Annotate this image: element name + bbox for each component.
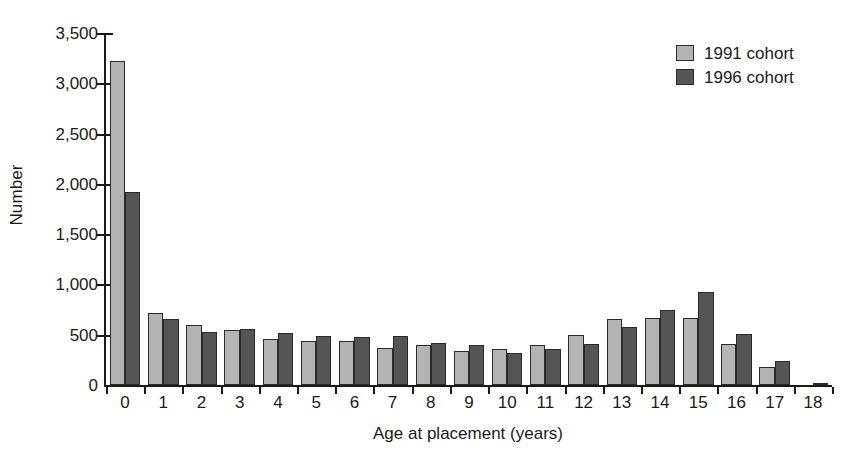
x-axis-tick-labels: 0123456789101112131415161718 (104, 394, 834, 418)
y-axis-tick-label: 0 (89, 377, 98, 394)
bar (660, 310, 675, 385)
bar (454, 351, 469, 385)
x-axis-line (104, 385, 832, 387)
x-axis-title-text: Age at placement (years) (373, 424, 563, 443)
bar (775, 361, 790, 385)
bar (736, 334, 751, 385)
bar (339, 341, 354, 385)
bar (263, 339, 278, 385)
x-axis-tick-label: 2 (197, 394, 206, 411)
x-axis-tick-label: 14 (651, 394, 670, 411)
bar (698, 292, 713, 385)
legend-label-0: 1991 cohort (704, 45, 794, 62)
bar (492, 349, 507, 385)
bar (568, 335, 583, 385)
bar (202, 332, 217, 385)
bar-chart-figure: Number 05001,0001,5002,0002,5003,0003,50… (0, 0, 863, 464)
bar (224, 330, 239, 385)
x-axis-tick-mark (641, 387, 643, 394)
x-axis-tick-label: 3 (235, 394, 244, 411)
y-axis-tick-label: 2,000 (55, 175, 98, 192)
legend-item-1: 1996 cohort (676, 65, 846, 89)
x-axis-tick-label: 10 (498, 394, 517, 411)
y-axis-tick-label: 2,500 (55, 125, 98, 142)
y-axis-tick-mark (97, 134, 104, 136)
bar (278, 333, 293, 385)
x-axis-tick-label: 9 (464, 394, 473, 411)
bar (645, 318, 660, 385)
bar (377, 348, 392, 385)
x-axis-tick-label: 12 (574, 394, 593, 411)
x-axis-tick-mark (794, 387, 796, 394)
x-axis-tick-label: 0 (120, 394, 129, 411)
x-axis-tick-mark (259, 387, 261, 394)
y-axis-tick-label: 500 (70, 326, 98, 343)
y-axis-tick-mark (97, 234, 104, 236)
bar (545, 349, 560, 385)
x-axis-tick-mark (373, 387, 375, 394)
x-axis-tick-label: 18 (803, 394, 822, 411)
bar (813, 383, 828, 385)
x-axis-tick-mark (221, 387, 223, 394)
bar (186, 325, 201, 385)
bar (584, 344, 599, 385)
x-axis-tick-label: 17 (765, 394, 784, 411)
y-axis-tick-mark (97, 284, 104, 286)
bar (622, 327, 637, 385)
x-axis-title: Age at placement (years) (104, 424, 832, 444)
x-axis-tick-mark (297, 387, 299, 394)
x-axis-tick-label: 11 (537, 394, 555, 411)
x-axis-tick-label: 15 (689, 394, 708, 411)
bar (110, 61, 125, 385)
x-axis-tick-label: 7 (388, 394, 397, 411)
x-axis-tick-mark (526, 387, 528, 394)
y-axis-tick-mark (97, 335, 104, 337)
x-axis-tick-mark (182, 387, 184, 394)
x-axis-tick-mark (335, 387, 337, 394)
legend-swatch-icon-0 (676, 45, 694, 61)
bar (240, 329, 255, 385)
y-axis-tick-label: 3,500 (55, 25, 98, 42)
x-axis-tick-label: 1 (159, 394, 168, 411)
x-axis-tick-label: 4 (273, 394, 282, 411)
bar (721, 344, 736, 385)
x-axis-tick-mark (717, 387, 719, 394)
x-axis-tick-mark (565, 387, 567, 394)
x-axis-tick-mark (679, 387, 681, 394)
x-axis-tick-label: 6 (350, 394, 359, 411)
x-axis-tick-mark (450, 387, 452, 394)
bar (759, 367, 774, 385)
bar (163, 319, 178, 385)
bar (607, 319, 622, 385)
y-axis-tick-mark (97, 83, 104, 85)
bar (301, 341, 316, 385)
y-axis-tick-mark (97, 33, 104, 35)
bar (416, 345, 431, 385)
x-axis-tick-mark (603, 387, 605, 394)
y-axis-tick-label: 1,500 (55, 226, 98, 243)
y-axis-tick-labels: 05001,0001,5002,0002,5003,0003,500 (20, 0, 98, 464)
x-axis-tick-label: 8 (426, 394, 435, 411)
x-axis-tick-mark (144, 387, 146, 394)
legend-swatch-icon-1 (676, 69, 694, 85)
y-axis-tick-label: 3,000 (55, 75, 98, 92)
bar (125, 192, 140, 385)
x-axis-tick-label: 5 (311, 394, 320, 411)
chart-legend: 1991 cohort 1996 cohort (676, 41, 846, 89)
bar (507, 353, 522, 385)
bar (354, 337, 369, 385)
legend-label-1: 1996 cohort (704, 69, 794, 86)
bar (316, 336, 331, 385)
x-axis-tick-mark (488, 387, 490, 394)
bar (148, 313, 163, 385)
x-axis-tick-label: 16 (727, 394, 746, 411)
bar (530, 345, 545, 385)
x-axis-tick-mark (756, 387, 758, 394)
x-axis-tick-label: 13 (612, 394, 631, 411)
bar (683, 318, 698, 385)
x-axis-tick-mark (106, 387, 108, 394)
bar (469, 345, 484, 385)
x-axis-tick-mark (412, 387, 414, 394)
y-axis-tick-mark (97, 184, 104, 186)
y-axis-tick-label: 1,000 (55, 276, 98, 293)
